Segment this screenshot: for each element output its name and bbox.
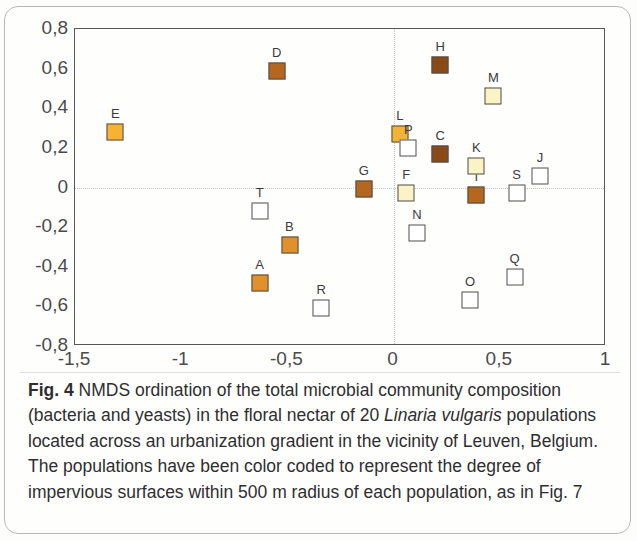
- figure-number: Fig. 4: [28, 380, 74, 400]
- data-point-g: [355, 181, 372, 198]
- point-label-d: D: [272, 45, 282, 60]
- data-point-o: [462, 292, 479, 309]
- point-label-m: M: [488, 70, 499, 85]
- y-tick-label: 0: [57, 176, 68, 198]
- data-point-b: [281, 236, 298, 253]
- y-tick-label: 0,6: [42, 57, 68, 79]
- figure-caption: Fig. 4 NMDS ordination of the total micr…: [28, 378, 611, 505]
- point-label-h: H: [436, 39, 446, 54]
- data-point-j: [532, 167, 549, 184]
- point-label-q: Q: [510, 251, 520, 266]
- data-point-n: [408, 225, 425, 242]
- point-label-n: N: [412, 207, 422, 222]
- point-label-t: T: [256, 185, 264, 200]
- data-point-h: [432, 56, 449, 73]
- y-tick-label: 0,8: [42, 17, 68, 39]
- point-label-s: S: [512, 167, 521, 182]
- data-point-r: [313, 300, 330, 317]
- point-label-b: B: [285, 219, 294, 234]
- point-label-j: J: [537, 150, 544, 165]
- plot-area: ABCDEFGHIJKLMNOPQRST: [74, 28, 605, 345]
- data-point-f: [398, 185, 415, 202]
- data-point-p: [400, 139, 417, 156]
- y-tick-label: -0,4: [35, 255, 68, 277]
- point-label-p: P: [404, 122, 413, 137]
- data-point-i: [468, 187, 485, 204]
- data-point-t: [251, 203, 268, 220]
- data-point-c: [432, 145, 449, 162]
- point-label-l: L: [396, 108, 403, 123]
- y-tick-label: 0,4: [42, 96, 68, 118]
- figure-container: 0,80,60,40,20-0,2-0,4-0,6-0,8 ABCDEFGHIJ…: [0, 0, 637, 541]
- x-tick-label: 1: [600, 348, 611, 370]
- point-label-r: R: [317, 282, 327, 297]
- data-point-d: [268, 62, 285, 79]
- x-tick-label: 0: [387, 348, 398, 370]
- point-label-e: E: [111, 106, 120, 121]
- x-tick-label: -1,5: [58, 348, 91, 370]
- point-label-c: C: [436, 128, 446, 143]
- data-point-s: [508, 185, 525, 202]
- y-axis-tick-labels: 0,80,60,40,20-0,2-0,4-0,6-0,8: [0, 0, 68, 368]
- species-name: Linaria vulgaris: [384, 405, 502, 425]
- y-tick-label: 0,2: [42, 136, 68, 158]
- data-point-m: [485, 88, 502, 105]
- data-point-a: [251, 274, 268, 291]
- x-tick-label: 0,5: [486, 348, 512, 370]
- x-tick-label: -0,5: [270, 348, 303, 370]
- point-label-g: G: [359, 163, 369, 178]
- caption-divider: [20, 372, 620, 373]
- y-tick-label: -0,2: [35, 215, 68, 237]
- point-label-k: K: [472, 140, 481, 155]
- x-tick-label: -1: [172, 348, 189, 370]
- data-point-q: [506, 268, 523, 285]
- zero-line-vertical: [394, 29, 395, 344]
- point-label-o: O: [465, 274, 475, 289]
- data-point-k: [468, 157, 485, 174]
- point-label-f: F: [402, 167, 410, 182]
- y-tick-label: -0,6: [35, 294, 68, 316]
- scatter-plot: 0,80,60,40,20-0,2-0,4-0,6-0,8 ABCDEFGHIJ…: [0, 0, 637, 368]
- point-label-a: A: [255, 257, 264, 272]
- data-point-e: [107, 124, 124, 141]
